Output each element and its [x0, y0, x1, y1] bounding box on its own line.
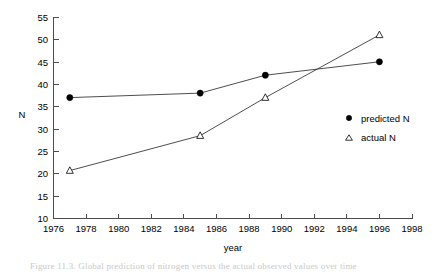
x-tick-labels: 1976 1978 1980 1982 1984 1986 1988 1990 … [43, 223, 423, 234]
y-tick-label: 35 [37, 101, 48, 112]
y-tick-label: 45 [37, 57, 48, 68]
line-chart: 55 50 45 40 35 30 25 20 15 10 N [0, 0, 442, 272]
legend-label-actual: actual N [361, 132, 396, 143]
x-tick-marks [54, 214, 413, 219]
series-line [70, 35, 380, 171]
x-tick-label: 1990 [271, 223, 292, 234]
figure-caption-strip: Figure 11.3. Global prediction of nitrog… [0, 262, 442, 272]
series-predicted [67, 59, 383, 101]
y-tick-label: 40 [37, 79, 48, 90]
x-tick-label: 1984 [173, 223, 194, 234]
x-tick-label: 1982 [141, 223, 162, 234]
data-point-filled-circle [376, 59, 382, 65]
y-tick-label: 20 [37, 168, 48, 179]
x-tick-label: 1976 [43, 223, 64, 234]
series-line [70, 62, 380, 98]
y-tick-labels: 55 50 45 40 35 30 25 20 15 10 [37, 12, 48, 224]
x-tick-label: 1980 [108, 223, 129, 234]
legend-label-predicted: predicted N [361, 113, 410, 124]
x-tick-label: 1998 [401, 223, 422, 234]
x-tick-label: 1996 [369, 223, 390, 234]
x-tick-label: 1986 [206, 223, 227, 234]
legend: predicted N actual N [346, 113, 410, 143]
x-tick-label: 1978 [76, 223, 97, 234]
y-tick-label: 55 [37, 12, 48, 23]
data-point-filled-circle [67, 95, 73, 101]
y-tick-label: 15 [37, 191, 48, 202]
legend-entry-actual[interactable]: actual N [346, 132, 396, 143]
data-point-open-triangle [197, 132, 204, 139]
figure-root: 55 50 45 40 35 30 25 20 15 10 N [0, 0, 442, 272]
axis-group [54, 17, 413, 219]
data-point-open-triangle [376, 31, 383, 38]
y-tick-marks [54, 18, 59, 219]
y-tick-label: 50 [37, 34, 48, 45]
x-tick-label: 1988 [239, 223, 260, 234]
y-tick-label: 30 [37, 124, 48, 135]
x-tick-label: 1992 [304, 223, 325, 234]
x-axis-title: year [224, 242, 242, 253]
y-axis-title: N [19, 109, 26, 120]
data-point-filled-circle [262, 72, 268, 78]
filled-circle-icon [346, 115, 351, 120]
data-point-open-triangle [262, 94, 269, 101]
open-triangle-icon [346, 135, 353, 140]
series-layer [66, 31, 383, 173]
x-tick-label: 1994 [336, 223, 357, 234]
legend-entry-predicted[interactable]: predicted N [346, 113, 409, 124]
y-tick-label: 25 [37, 146, 48, 157]
series-actual [66, 31, 383, 173]
figure-caption: Figure 11.3. Global prediction of nitrog… [30, 262, 357, 271]
data-point-filled-circle [197, 90, 203, 96]
